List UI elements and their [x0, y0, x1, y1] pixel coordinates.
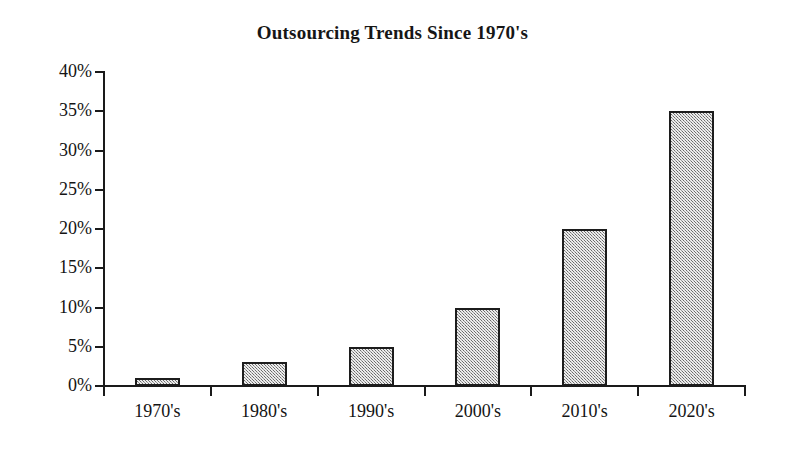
- bar-2010s[interactable]: [562, 229, 607, 386]
- x-axis-label-1990s: 1990's: [318, 400, 425, 422]
- y-axis-tick-label: 35%: [30, 101, 92, 119]
- bar-1980s[interactable]: [242, 362, 287, 386]
- x-axis-tick: [744, 386, 746, 396]
- x-axis-tick: [637, 386, 639, 396]
- y-axis-tick-label: 20%: [30, 219, 92, 237]
- x-axis-tick: [424, 386, 426, 396]
- x-axis-tick: [530, 386, 532, 396]
- bar-2020s[interactable]: [669, 111, 714, 386]
- y-axis-tick: [95, 189, 104, 191]
- y-axis-tick: [95, 228, 104, 230]
- x-axis-label-2010s: 2010's: [531, 400, 638, 422]
- x-axis-tick: [317, 386, 319, 396]
- chart-title: Outsourcing Trends Since 1970's: [0, 22, 785, 44]
- y-axis-tick: [95, 307, 104, 309]
- x-axis-label-2000s: 2000's: [425, 400, 532, 422]
- y-axis-tick: [95, 110, 104, 112]
- x-axis-tick: [210, 386, 212, 396]
- y-axis-tick: [95, 150, 104, 152]
- bar-1970s[interactable]: [135, 378, 180, 386]
- y-axis-tick-label: 10%: [30, 298, 92, 316]
- y-axis-tick: [95, 71, 104, 73]
- x-axis-label-1970s: 1970's: [104, 400, 211, 422]
- chart-container: Outsourcing Trends Since 1970's 0%5%10%1…: [0, 0, 785, 466]
- y-axis-tick: [95, 346, 104, 348]
- y-axis-tick-label: 25%: [30, 180, 92, 198]
- y-axis-tick-label: 30%: [30, 141, 92, 159]
- bar-1990s[interactable]: [349, 347, 394, 386]
- x-axis-label-2020s: 2020's: [638, 400, 745, 422]
- x-axis-label-1980s: 1980's: [211, 400, 318, 422]
- y-axis-tick-label: 15%: [30, 258, 92, 276]
- y-axis-tick: [95, 267, 104, 269]
- plot-area: [104, 72, 745, 386]
- y-axis-tick-label: 5%: [30, 337, 92, 355]
- bar-2000s[interactable]: [455, 308, 500, 387]
- y-axis-tick-label: 40%: [30, 62, 92, 80]
- y-axis-tick-label: 0%: [30, 376, 92, 394]
- x-axis-tick: [103, 386, 105, 396]
